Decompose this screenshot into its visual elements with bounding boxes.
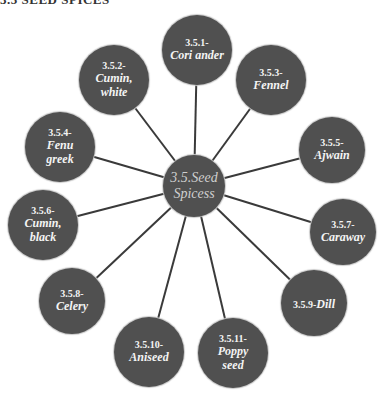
spice-node: 3.5.2-Cumin,white — [79, 45, 149, 115]
spice-node: 3.5.4-Fenugreek — [25, 112, 95, 182]
spice-node: 3.5.7-Caraway — [310, 199, 376, 265]
spice-node: 3.5.5-Ajwain — [299, 117, 365, 183]
spice-node: 3.5.9-Dill — [281, 270, 347, 336]
node-code: 3.5.9- — [293, 299, 316, 310]
node-name: Dill — [316, 297, 335, 311]
center-label-line1: 3.5.Seed — [170, 170, 217, 186]
node-name: Cori ander — [170, 49, 224, 63]
node-name: Cumin, — [95, 72, 132, 86]
node-name-line2: black — [30, 231, 57, 245]
center-node-seed-spices: 3.5.Seed Spicess — [163, 155, 225, 217]
spice-node: 3.5.8-Celery — [39, 268, 105, 334]
spice-node: 3.5.6-Cumin,black — [8, 190, 78, 260]
spice-node: 3.5.1-Cori ander — [162, 15, 232, 85]
node-name-line2: greek — [46, 153, 73, 167]
spice-node: 3.5.3-Fennel — [236, 45, 306, 115]
node-name: Cumin, — [24, 217, 61, 231]
node-name-line2: white — [101, 86, 128, 100]
node-name-line2: seed — [222, 359, 243, 373]
node-name: Poppy — [218, 345, 249, 359]
center-label-line2: Spicess — [173, 186, 214, 202]
node-name: Celery — [56, 300, 88, 314]
node-name: Fenu — [47, 139, 74, 153]
node-inline-label: 3.5.9-Dill — [293, 294, 335, 312]
node-name: Fennel — [253, 79, 288, 93]
node-name: Aniseed — [129, 351, 168, 365]
spice-node: 3.5.11-Poppyseed — [198, 318, 268, 388]
node-name: Ajwain — [314, 149, 349, 163]
node-name: Caraway — [321, 231, 365, 245]
spice-node: 3.5.10-Aniseed — [114, 317, 184, 387]
